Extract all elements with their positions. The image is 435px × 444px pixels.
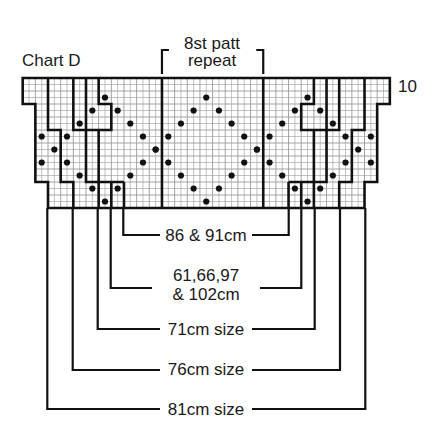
size-label-76: 76cm size <box>168 360 245 379</box>
size-label-71: 71cm size <box>168 320 245 339</box>
size-label-61-66-97-line2: & 102cm <box>172 285 239 304</box>
size-label-86-91: 86 & 91cm <box>165 226 246 245</box>
size-label-61-66-97-line1: 61,66,97 <box>173 266 239 285</box>
chart-title: Chart D <box>22 51 81 70</box>
row-number-label: 10 <box>398 77 417 96</box>
repeat-label-line2: repeat <box>188 51 236 70</box>
size-label-81: 81cm size <box>168 400 245 419</box>
